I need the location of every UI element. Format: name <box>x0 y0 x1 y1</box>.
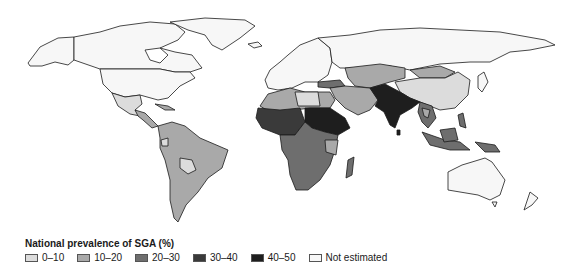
region-sri-lanka <box>397 130 400 135</box>
legend-item-30-40: 30–40 <box>193 252 238 263</box>
legend-swatch <box>251 254 264 262</box>
legend-label: 10–20 <box>94 252 122 263</box>
region-russia <box>318 28 555 70</box>
region-new-zealand <box>524 192 538 210</box>
region-philippines <box>458 113 466 128</box>
legend-label: 40–50 <box>268 252 296 263</box>
legend-label: 30–40 <box>210 252 238 263</box>
legend-swatch <box>25 254 38 262</box>
region-iceland <box>248 42 262 48</box>
region-japan <box>478 72 488 92</box>
legend-item-0-10: 0–10 <box>25 252 64 263</box>
region-libya <box>295 92 320 106</box>
region-australia <box>448 158 505 200</box>
legend-label: 0–10 <box>42 252 64 263</box>
region-tasmania <box>492 202 497 207</box>
region-canada <box>74 22 202 72</box>
region-caribbean <box>155 104 175 110</box>
region-alaska <box>28 37 74 66</box>
legend-swatch <box>135 254 148 262</box>
legend-item-10-20: 10–20 <box>77 252 122 263</box>
legend: National prevalence of SGA (%) 0–10 10–2… <box>25 238 387 263</box>
legend-item-not-estimated: Not estimated <box>309 252 388 263</box>
legend-item-20-30: 20–30 <box>135 252 180 263</box>
region-south-america <box>158 122 228 222</box>
legend-items: 0–10 10–20 20–30 30–40 40–50 Not estimat… <box>25 252 387 263</box>
world-map <box>0 0 583 240</box>
legend-swatch <box>309 254 322 262</box>
legend-title: National prevalence of SGA (%) <box>25 238 387 249</box>
region-new-guinea <box>475 142 500 152</box>
region-central-america <box>135 110 158 128</box>
legend-label: 20–30 <box>152 252 180 263</box>
region-middle-east <box>330 86 378 115</box>
legend-swatch <box>193 254 206 262</box>
legend-label: Not estimated <box>326 252 388 263</box>
region-madagascar <box>346 157 354 178</box>
legend-swatch <box>77 254 90 262</box>
legend-item-40-50: 40–50 <box>251 252 296 263</box>
